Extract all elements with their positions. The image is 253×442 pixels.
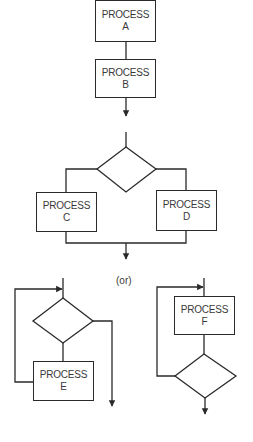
process-label: PROCESS bbox=[102, 67, 150, 79]
process-box-f: PROCESS F bbox=[174, 296, 235, 335]
process-id: E bbox=[60, 381, 66, 393]
decision-diamond-while bbox=[33, 298, 93, 343]
process-id: D bbox=[183, 211, 190, 223]
process-box-d: PROCESS D bbox=[156, 190, 217, 231]
process-id: A bbox=[122, 21, 128, 33]
process-box-a: PROCESS A bbox=[95, 0, 156, 42]
process-label: PROCESS bbox=[43, 200, 91, 212]
decision-diamond-selection bbox=[97, 147, 156, 192]
process-id: C bbox=[63, 212, 70, 224]
process-box-e: PROCESS E bbox=[33, 361, 94, 401]
process-label: PROCESS bbox=[163, 199, 211, 211]
process-label: PROCESS bbox=[181, 304, 229, 316]
process-label: PROCESS bbox=[102, 9, 150, 21]
process-label: PROCESS bbox=[40, 369, 88, 381]
process-id: F bbox=[202, 316, 208, 328]
process-box-b: PROCESS B bbox=[95, 59, 156, 98]
process-box-c: PROCESS C bbox=[36, 192, 97, 232]
process-id: B bbox=[122, 79, 128, 91]
decision-diamond-until bbox=[175, 354, 236, 398]
or-separator: (or) bbox=[116, 275, 132, 286]
